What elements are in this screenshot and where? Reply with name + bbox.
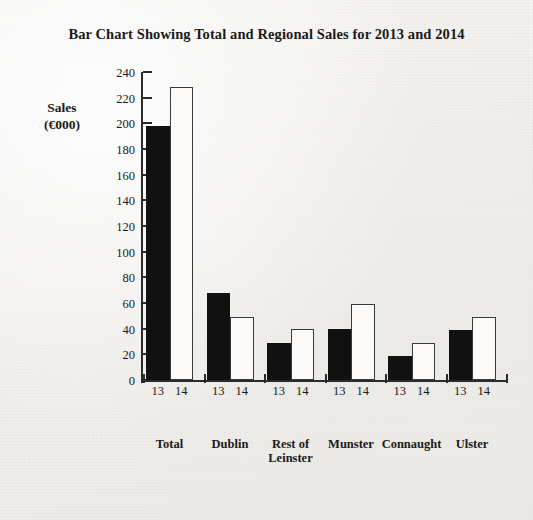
y-axis-tick — [143, 71, 152, 73]
category-label-line: Munster — [328, 437, 374, 451]
bar-connaught-14 — [412, 343, 436, 380]
plot-area: 020406080100120140160180200220240 — [141, 72, 508, 382]
category-label-line: Ulster — [456, 437, 489, 451]
bar-chart-figure: Bar Chart Showing Total and Regional Sal… — [0, 0, 533, 520]
y-axis-tick-label: 180 — [116, 144, 135, 157]
x-axis-tick — [264, 374, 266, 383]
year-label: 14 — [417, 384, 430, 399]
bar-dublin-14 — [230, 317, 254, 380]
y-axis-title-line-2: (€000) — [20, 117, 104, 134]
x-axis-tick — [325, 374, 327, 383]
y-axis-line — [141, 72, 143, 383]
x-axis-tick — [385, 374, 387, 383]
category-label: Total — [156, 437, 183, 451]
year-label: 14 — [357, 384, 370, 399]
x-axis-tick — [446, 374, 448, 383]
year-label: 13 — [333, 384, 346, 399]
bar-connaught-13 — [388, 356, 412, 380]
category-label: Dublin — [212, 437, 249, 451]
y-axis-title-line-1: Sales — [20, 100, 104, 117]
category-label: Munster — [328, 437, 374, 451]
year-tick-labels: 131413141314131413141314 — [141, 384, 508, 406]
year-label: 14 — [236, 384, 249, 399]
y-axis-tick-label: 120 — [116, 221, 135, 234]
bar-rest-of-leinster-13 — [267, 343, 291, 380]
year-label: 13 — [212, 384, 225, 399]
y-axis-title: Sales (€000) — [20, 100, 104, 134]
y-axis-tick-label: 220 — [116, 92, 135, 105]
y-axis-tick-label: 160 — [116, 169, 135, 182]
bar-rest-of-leinster-14 — [291, 329, 315, 380]
year-label: 13 — [454, 384, 467, 399]
category-label-line: Rest of — [268, 437, 312, 451]
y-axis-tick-label: 40 — [123, 323, 136, 336]
year-label: 13 — [273, 384, 286, 399]
bar-ulster-13 — [449, 330, 473, 380]
year-label: 13 — [152, 384, 165, 399]
y-axis-tick — [143, 122, 152, 124]
bar-dublin-13 — [207, 293, 231, 380]
year-label: 14 — [478, 384, 491, 399]
year-label: 14 — [175, 384, 188, 399]
category-labels: TotalDublinRest ofLeinsterMunsterConnaug… — [141, 437, 508, 477]
bar-total-14 — [170, 87, 194, 380]
category-label-line: Connaught — [382, 437, 442, 451]
category-label: Rest ofLeinster — [268, 437, 312, 466]
category-label: Ulster — [456, 437, 489, 451]
y-axis-tick-label: 80 — [123, 272, 136, 285]
y-axis-tick-label: 60 — [123, 298, 136, 311]
category-label: Connaught — [382, 437, 442, 451]
category-label-line: Leinster — [268, 451, 312, 465]
y-axis-tick-label: 240 — [116, 67, 135, 80]
category-label-line: Total — [156, 437, 183, 451]
bar-munster-14 — [351, 304, 375, 380]
bar-total-13 — [146, 126, 170, 380]
x-axis-tick — [204, 374, 206, 383]
y-axis-tick-label: 20 — [123, 349, 136, 362]
y-axis-tick-label: 200 — [116, 118, 135, 131]
x-axis-tick — [143, 374, 145, 383]
y-axis-tick-label: 140 — [116, 195, 135, 208]
bar-munster-13 — [328, 329, 352, 380]
chart-title: Bar Chart Showing Total and Regional Sal… — [0, 26, 533, 43]
y-axis-tick-label: 100 — [116, 246, 135, 259]
category-label-line: Dublin — [212, 437, 249, 451]
year-label: 13 — [394, 384, 407, 399]
bar-ulster-14 — [472, 317, 496, 380]
y-axis-tick-label: 0 — [129, 375, 135, 388]
year-label: 14 — [296, 384, 309, 399]
x-axis-tick — [506, 374, 508, 383]
y-axis-tick — [143, 97, 152, 99]
